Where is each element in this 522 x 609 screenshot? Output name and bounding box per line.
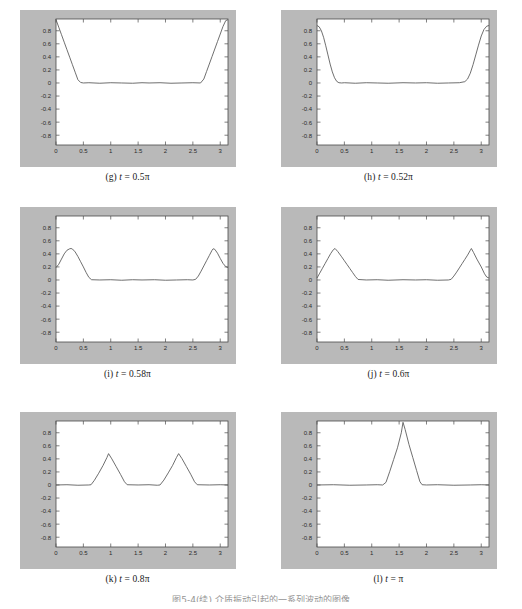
y-tick-label: -0.6 xyxy=(40,317,51,323)
x-tick-label: 3 xyxy=(479,550,483,556)
x-tick-label: 3 xyxy=(218,148,222,154)
y-tick-label: -0.8 xyxy=(301,133,312,139)
x-tick-label: 3 xyxy=(479,148,483,154)
y-tick-label: -0.6 xyxy=(301,120,312,126)
figure-panel-i: 0.80.60.40.20-0.2-0.4-0.6-0.800.511.522.… xyxy=(0,195,255,400)
panel-caption-j: (j) t = 0.6π xyxy=(367,369,409,379)
panel-caption-k: (k) t = 0.8π xyxy=(105,574,149,584)
panel-caption-label: (l) xyxy=(374,574,383,584)
x-tick-label: 1.5 xyxy=(394,550,403,556)
figure-panel-h: 0.80.60.40.20-0.2-0.4-0.6-0.800.511.522.… xyxy=(255,0,522,195)
x-tick-label: 2 xyxy=(424,148,428,154)
y-tick-label: 0.2 xyxy=(303,469,312,475)
axes-frame xyxy=(56,421,228,547)
left-margin xyxy=(24,418,56,550)
y-tick-label: 0.8 xyxy=(303,430,312,436)
y-tick-label: 0.2 xyxy=(42,469,51,475)
panel-caption-value: = 0.5π xyxy=(125,172,150,182)
y-tick-label: -0.8 xyxy=(301,330,312,336)
x-tick-label: 2.5 xyxy=(449,550,458,556)
panel-caption-value: = 0.6π xyxy=(384,369,409,379)
y-tick-label: -0.8 xyxy=(40,535,51,541)
x-tick-label: 2.5 xyxy=(188,345,197,351)
left-margin xyxy=(285,16,317,148)
x-tick-label: 1 xyxy=(370,148,374,154)
y-tick-label: 0.2 xyxy=(42,264,51,270)
x-tick-label: 1.5 xyxy=(133,345,142,351)
y-tick-label: 0.6 xyxy=(42,41,51,47)
y-tick-label: 0.4 xyxy=(42,456,51,462)
panel-caption-value: = 0.58π xyxy=(121,369,151,379)
y-tick-label: -0.6 xyxy=(40,522,51,528)
panel-caption-label: (j) xyxy=(367,369,376,379)
x-tick-label: 2 xyxy=(163,345,167,351)
y-tick-label: 0.6 xyxy=(303,443,312,449)
figure-panel-grid: 0.80.60.40.20-0.2-0.4-0.6-0.800.511.522.… xyxy=(0,0,522,592)
x-tick-label: 0.5 xyxy=(79,148,88,154)
panel-caption-g: (g) t = 0.5π xyxy=(105,172,149,182)
y-tick-label: 0.4 xyxy=(303,54,312,60)
y-tick-label: -0.4 xyxy=(301,106,312,112)
x-tick-label: 0 xyxy=(54,148,58,154)
panel-caption-label: (k) xyxy=(105,574,116,584)
y-tick-label: -0.4 xyxy=(40,106,51,112)
plot-area-i: 0.80.60.40.20-0.2-0.4-0.6-0.800.511.522.… xyxy=(20,207,236,364)
panel-caption-h: (h) t = 0.52π xyxy=(364,172,413,182)
y-tick-label: 0.8 xyxy=(42,225,51,231)
panel-caption-variable: t xyxy=(116,369,119,379)
panel-caption-value: = 0.52π xyxy=(383,172,413,182)
y-tick-label: 0 xyxy=(47,80,51,86)
x-tick-label: 1 xyxy=(370,550,374,556)
x-tick-label: 3 xyxy=(218,345,222,351)
x-tick-label: 1 xyxy=(109,345,113,351)
x-tick-label: 1 xyxy=(109,148,113,154)
x-tick-label: 0 xyxy=(54,550,58,556)
panel-caption-l: (l) t = π xyxy=(374,574,404,584)
x-tick-label: 2.5 xyxy=(188,148,197,154)
left-margin xyxy=(24,213,56,345)
y-tick-label: 0.6 xyxy=(42,443,51,449)
y-tick-label: 0.8 xyxy=(303,28,312,34)
y-tick-label: 0.8 xyxy=(42,28,51,34)
plot-area-k: 0.80.60.40.20-0.2-0.4-0.6-0.800.511.522.… xyxy=(20,412,236,569)
panel-caption-i: (i) t = 0.58π xyxy=(104,369,151,379)
y-tick-label: 0.2 xyxy=(303,67,312,73)
panel-caption-variable: t xyxy=(378,172,381,182)
x-tick-label: 0.5 xyxy=(79,550,88,556)
x-tick-label: 2 xyxy=(424,550,428,556)
y-tick-label: 0.2 xyxy=(42,67,51,73)
x-tick-label: 3 xyxy=(218,550,222,556)
figure-caption: 图5-4(续) 介质振动引起的一系列波动的图像 xyxy=(0,594,522,609)
axes-frame xyxy=(56,216,228,342)
figure-panel-k: 0.80.60.40.20-0.2-0.4-0.6-0.800.511.522.… xyxy=(0,400,255,592)
panel-caption-variable: t xyxy=(119,172,122,182)
left-margin xyxy=(285,213,317,345)
x-tick-label: 0.5 xyxy=(79,345,88,351)
figure-caption-text: 图5-4(续) 介质振动引起的一系列波动的图像 xyxy=(172,595,350,602)
y-tick-label: 0.4 xyxy=(303,456,312,462)
y-tick-label: 0 xyxy=(308,277,312,283)
panel-caption-variable: t xyxy=(385,574,388,584)
x-tick-label: 0.5 xyxy=(340,550,349,556)
y-tick-label: -0.4 xyxy=(301,508,312,514)
x-tick-label: 0 xyxy=(315,148,319,154)
plot-matte-l: 0.80.60.40.20-0.2-0.4-0.6-0.800.511.522.… xyxy=(281,412,497,569)
y-tick-label: 0.4 xyxy=(42,251,51,257)
x-tick-label: 1.5 xyxy=(394,345,403,351)
y-tick-label: 0.6 xyxy=(303,238,312,244)
y-tick-label: 0.4 xyxy=(42,54,51,60)
figure-panel-l: 0.80.60.40.20-0.2-0.4-0.6-0.800.511.522.… xyxy=(255,400,522,592)
x-tick-label: 0 xyxy=(315,550,319,556)
plot-matte-h: 0.80.60.40.20-0.2-0.4-0.6-0.800.511.522.… xyxy=(281,10,497,167)
left-margin xyxy=(285,418,317,550)
plot-area-l: 0.80.60.40.20-0.2-0.4-0.6-0.800.511.522.… xyxy=(281,412,497,569)
panel-caption-label: (h) xyxy=(364,172,375,182)
y-tick-label: -0.2 xyxy=(40,290,51,296)
y-tick-label: -0.2 xyxy=(301,495,312,501)
figure-panel-g: 0.80.60.40.20-0.2-0.4-0.6-0.800.511.522.… xyxy=(0,0,255,195)
y-tick-label: -0.2 xyxy=(301,93,312,99)
y-tick-label: -0.4 xyxy=(301,303,312,309)
y-tick-label: -0.8 xyxy=(301,535,312,541)
y-tick-label: 0 xyxy=(47,482,51,488)
y-tick-label: -0.8 xyxy=(40,330,51,336)
